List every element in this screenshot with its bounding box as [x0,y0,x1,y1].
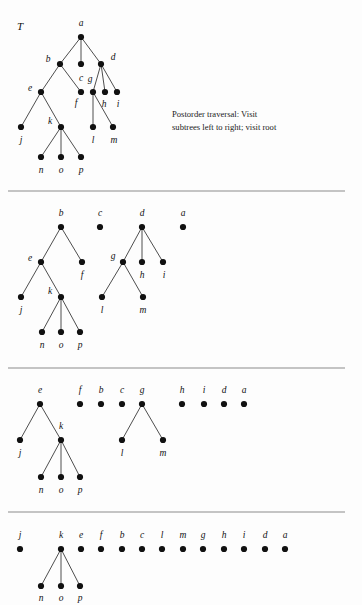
node-label-i-panel4: i [243,531,246,541]
tree-node-d-panel1 [98,61,104,67]
tree-node-c-panel2 [97,224,103,230]
node-label-m-panel4: m [180,531,187,541]
tree-edge-b-f [60,64,81,92]
tree-edge-d-i [142,227,163,262]
node-label-h-panel2: h [140,271,145,281]
node-label-e-panel1: e [28,84,32,94]
tree-edge-g-l [122,404,142,440]
node-label-b-panel1: b [46,55,51,65]
tree-name-label: T [17,21,23,32]
node-label-k-panel2: k [48,287,52,297]
tree-node-b-panel4 [119,546,125,552]
traversal-note: Postorder traversal: Visit subtrees left… [172,108,357,134]
node-label-b-panel4: b [120,531,125,541]
tree-edge-k-n [42,297,61,332]
tree-edge-e-j [21,92,41,127]
tree-node-j-panel4 [17,546,23,552]
tree-node-e-panel4 [78,546,84,552]
node-label-h-panel3: h [180,386,185,396]
tree-edge-b-f [61,227,82,262]
tree-edge-k-p [61,440,80,477]
tree-node-b-panel2 [58,224,64,230]
tree-node-p-panel2 [77,329,83,335]
tree-node-f-panel4 [98,546,104,552]
tree-node-a-panel1 [78,34,84,40]
tree-node-f-panel1 [78,89,84,95]
tree-node-j-panel3 [17,437,23,443]
tree-node-n-panel4 [38,583,44,589]
node-label-a-panel4: a [283,531,288,541]
tree-edge-b-e [41,64,60,92]
tree-node-c-panel4 [139,546,145,552]
tree-node-h-panel1 [102,89,108,95]
tree-edge-g-l [102,262,123,297]
node-label-o-panel4: o [59,594,64,604]
tree-node-d-panel2 [139,224,145,230]
node-label-o-panel2: o [59,341,64,351]
node-label-i-panel3: i [203,386,206,396]
tree-node-l-panel4 [159,546,165,552]
tree-node-f-panel2 [79,259,85,265]
node-label-n-panel1: n [39,166,44,176]
node-label-c-panel3: c [120,386,124,396]
tree-node-k-panel2 [58,294,64,300]
tree-node-h-panel2 [139,259,145,265]
tree-node-g-panel3 [139,401,145,407]
node-label-e-panel4: e [79,531,83,541]
tree-node-m-panel2 [140,294,146,300]
tree-node-i-panel4 [241,546,247,552]
node-label-j-panel2: j [20,306,23,316]
tree-edge-a-b [60,37,81,64]
tree-edge-e-j [21,262,41,297]
tree-node-n-panel2 [39,329,45,335]
node-label-j-panel4: j [19,531,22,541]
node-label-h-panel1: h [102,100,107,110]
node-label-j-panel3: j [19,449,22,459]
tree-node-e-panel1 [38,89,44,95]
node-label-k-panel1: k [48,117,52,127]
node-label-l-panel3: l [121,449,124,459]
tree-edge-e-k [40,404,61,440]
node-label-n-panel2: n [40,341,45,351]
tree-node-c-panel3 [119,401,125,407]
tree-node-m-panel4 [180,546,186,552]
tree-node-a-panel2 [180,224,186,230]
tree-node-o-panel1 [58,154,64,160]
tree-node-g-panel2 [120,259,126,265]
node-label-l-panel4: l [161,531,164,541]
node-label-n-panel4: n [39,594,44,604]
node-label-a-panel1: a [79,19,84,29]
tree-edge-d-i [101,64,117,92]
tree-edge-a-d [81,37,101,64]
node-label-g-panel1: g [88,75,93,85]
node-label-f-panel1: f [75,99,78,109]
tree-edge-b-e [41,227,61,262]
tree-node-f-panel3 [77,401,83,407]
tree-node-h-panel3 [179,401,185,407]
node-label-f-panel2: f [81,271,84,281]
tree-node-p-panel1 [78,154,84,160]
tree-node-l-panel3 [119,437,125,443]
node-label-l-panel2: l [101,306,104,316]
node-label-g-panel4: g [201,531,206,541]
node-label-p-panel3: p [78,486,83,496]
node-label-i-panel1: i [117,100,120,110]
node-label-d-panel1: d [111,53,116,63]
tree-edge-k-n [41,127,61,157]
tree-node-o-panel4 [58,583,64,589]
node-label-e-panel3: e [38,386,42,396]
tree-edge-k-p [61,297,80,332]
tree-node-e-panel3 [37,401,43,407]
tree-node-b-panel1 [57,61,63,67]
node-label-m-panel2: m [140,306,147,316]
tree-node-j-panel2 [18,294,24,300]
node-label-d-panel4: d [263,531,268,541]
node-label-b-panel2: b [59,209,64,219]
node-label-m-panel1: m [111,136,118,146]
tree-node-i-panel3 [201,401,207,407]
node-label-a-panel2: a [181,209,186,219]
node-label-k-panel4: k [59,531,63,541]
tree-node-p-panel3 [77,474,83,480]
node-label-l-panel1: l [92,136,95,146]
tree-edge-d-g [93,64,101,92]
